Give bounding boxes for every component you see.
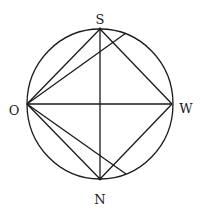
- compass-circle-diagram: S O W N: [0, 0, 201, 212]
- label-o: O: [9, 103, 20, 118]
- line-s-w: [100, 29, 172, 104]
- line-o-n: [27, 104, 100, 179]
- vertex-s-dot: [99, 28, 102, 31]
- line-n-w: [100, 104, 172, 179]
- line-o-upper-chord: [27, 33, 126, 104]
- vertex-n-dot: [99, 178, 102, 181]
- line-o-lower-chord: [27, 104, 126, 174]
- label-w: W: [179, 101, 193, 116]
- label-n: N: [94, 192, 105, 207]
- label-s: S: [96, 12, 105, 27]
- line-o-s: [27, 29, 100, 104]
